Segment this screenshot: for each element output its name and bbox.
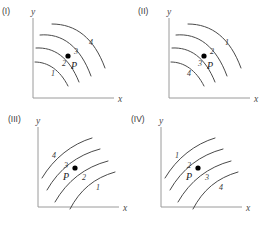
panel-III-label-3: 3 xyxy=(63,161,68,170)
panel-II-point-P-dot xyxy=(201,53,206,58)
panel-II-contour-1 xyxy=(188,24,241,68)
panel-IV-label-1: 1 xyxy=(175,151,179,160)
panel-II-x-axis-label: x xyxy=(253,94,259,104)
panel-IV-roman-label: (IV) xyxy=(131,114,145,124)
panel-IV-point-P-label: P xyxy=(185,171,192,182)
panel-III-point-P-label: P xyxy=(62,171,69,182)
panel-IV-y-axis-label: y xyxy=(158,116,164,126)
panel-IV-contour-4 xyxy=(193,172,238,209)
panel-III: (III) y x 4 3 2 1 P xyxy=(20,110,155,223)
panel-I-label-3: 3 xyxy=(73,47,78,56)
panel-IV-x-axis-label: x xyxy=(245,203,251,213)
panel-I-point-P-dot xyxy=(65,53,70,58)
panel-II-label-1: 1 xyxy=(225,38,229,47)
panel-I-x-axis-label: x xyxy=(117,94,123,104)
panel-II-label-3: 3 xyxy=(197,59,202,68)
panel-II-roman-label: (II) xyxy=(138,6,149,16)
panel-I-point-P-label: P xyxy=(70,60,77,71)
panel-II-y-axis-label: y xyxy=(166,7,172,17)
panel-III-contour-1 xyxy=(70,172,115,209)
panel-III-point-P-dot xyxy=(72,165,77,170)
panel-III-label-1: 1 xyxy=(96,183,100,192)
panel-III-label-4: 4 xyxy=(52,151,56,160)
panel-I-roman-label: (I) xyxy=(2,6,10,16)
panel-III-y-axis-label: y xyxy=(35,116,41,126)
panel-III-x-axis-label: x xyxy=(122,203,128,213)
panel-I-label-1: 1 xyxy=(51,69,55,78)
panel-I: (I) y x 1 2 3 4 P xyxy=(0,0,135,113)
panel-I-label-2: 2 xyxy=(62,59,66,68)
panel-III-label-2: 2 xyxy=(82,173,86,182)
panel-I-contour-4 xyxy=(52,24,105,68)
panel-I-y-axis-label: y xyxy=(30,7,36,17)
panel-II-label-2: 2 xyxy=(210,47,214,56)
panel-II-label-4: 4 xyxy=(187,69,191,78)
panel-III-roman-label: (III) xyxy=(8,114,21,124)
panel-IV: (IV) y x 1 2 3 4 P xyxy=(143,110,271,223)
contour-figure: (I) y x 1 2 3 4 P (II) y x xyxy=(0,0,271,226)
panel-I-label-4: 4 xyxy=(89,38,93,47)
panel-II-point-P-label: P xyxy=(206,60,213,71)
panel-IV-point-P-dot xyxy=(195,165,200,170)
panel-IV-label-4: 4 xyxy=(219,183,223,192)
panel-IV-label-3: 3 xyxy=(204,173,209,182)
panel-II: (II) y x 4 3 2 1 P xyxy=(136,0,271,113)
panel-IV-label-2: 2 xyxy=(187,161,191,170)
